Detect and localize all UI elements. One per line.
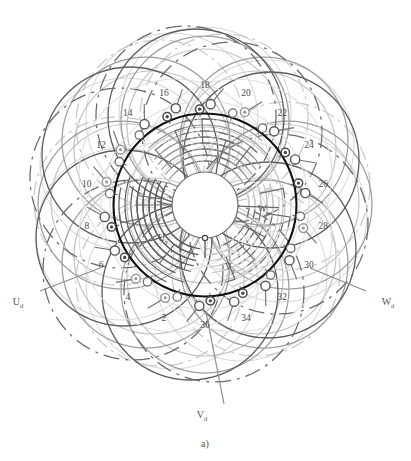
slot-node-core-26	[297, 181, 300, 184]
slot-node-alt-18[interactable]	[206, 100, 215, 109]
inner-coil-band	[148, 125, 267, 155]
slot-number-22: 22	[277, 108, 287, 118]
slot-node-alt-core-10	[105, 180, 108, 183]
slot-node-core-16	[165, 115, 168, 118]
neutral-point-node	[202, 235, 207, 240]
slot-node-alt-26[interactable]	[301, 188, 310, 197]
slot-number-26: 26	[318, 179, 328, 189]
slot-node-alt-core-12	[119, 148, 122, 151]
slot-node-core-34	[241, 292, 244, 295]
slot-number-6: 6	[99, 260, 104, 270]
slot-number-4: 4	[125, 292, 130, 302]
terminal-lead-lines	[40, 268, 366, 404]
slot-node-alt-core-28	[302, 226, 305, 229]
slot-number-16: 16	[159, 88, 169, 98]
slot-node-core-6	[123, 256, 126, 259]
slot-number-36: 36	[200, 320, 210, 330]
slot-number-12: 12	[96, 140, 106, 150]
slot-node-alt-22[interactable]	[270, 127, 279, 136]
slot-node-4[interactable]	[143, 278, 151, 286]
slot-node-14[interactable]	[135, 131, 143, 139]
slot-node-30[interactable]	[286, 244, 294, 252]
slot-node-10[interactable]	[105, 189, 113, 197]
slot-number-24: 24	[304, 140, 314, 150]
slot-node-alt-36[interactable]	[195, 301, 204, 310]
slot-node-core-8	[110, 225, 113, 228]
figure-caption: a)	[201, 438, 209, 450]
slot-node-alt-16[interactable]	[171, 104, 180, 113]
slot-node-12[interactable]	[115, 158, 123, 166]
slot-node-alt-8[interactable]	[100, 212, 109, 221]
slot-number-8: 8	[84, 221, 89, 231]
slot-node-32[interactable]	[267, 271, 275, 279]
slot-node-alt-30[interactable]	[285, 256, 294, 265]
slot-number-10: 10	[82, 179, 92, 189]
slot-node-20[interactable]	[229, 109, 237, 117]
terminal-label-W_d: Wd	[382, 296, 395, 309]
slot-node-alt-34[interactable]	[230, 297, 239, 306]
slot-number-14: 14	[123, 108, 133, 118]
inner-coil-band	[186, 161, 231, 169]
terminal-label-U_d: Ud	[13, 296, 24, 309]
slot-node-alt-core-20	[243, 111, 246, 114]
slot-node-alt-24[interactable]	[291, 155, 300, 164]
slot-node-2[interactable]	[173, 293, 181, 301]
slot-node-alt-32[interactable]	[261, 281, 270, 290]
slot-node-alt-6[interactable]	[110, 246, 119, 255]
slot-node-alt-core-2	[164, 296, 167, 299]
slot-node-28[interactable]	[296, 212, 304, 220]
terminal-label-V_d: Vd	[197, 409, 208, 422]
slot-node-alt-14[interactable]	[140, 120, 149, 129]
slot-number-34: 34	[241, 313, 251, 323]
diagram-canvas: 24681012141618202224262830323436 UdVdWdU…	[0, 0, 411, 461]
inner-coil-jog	[153, 244, 175, 263]
slot-number-28: 28	[318, 221, 328, 231]
slot-node-22[interactable]	[258, 124, 266, 132]
slot-node-alt-core-4	[134, 277, 137, 280]
wye-label-W_y: Wy	[258, 204, 271, 216]
slot-node-core-36	[209, 299, 212, 302]
winding-diagram-figure: 24681012141618202224262830323436 UdVdWdU…	[0, 0, 411, 461]
slot-node-core-24	[284, 151, 287, 154]
slot-node-core-18	[198, 107, 201, 110]
slot-number-18: 18	[200, 80, 210, 90]
slot-number-20: 20	[241, 88, 251, 98]
terminal-lead-W_d	[310, 268, 366, 291]
slot-number-2: 2	[162, 313, 167, 323]
slot-number-32: 32	[277, 292, 287, 302]
slot-number-30: 30	[304, 260, 314, 270]
